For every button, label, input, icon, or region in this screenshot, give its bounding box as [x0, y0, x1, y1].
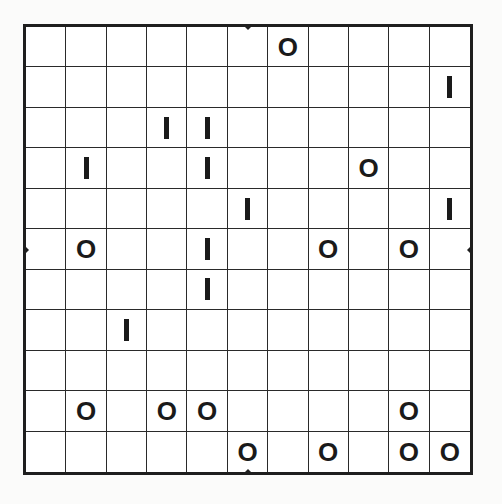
grid-cell-r9-c11[interactable]	[430, 351, 470, 391]
grid-cell-r5-c11[interactable]: I	[430, 189, 470, 229]
grid-cell-r4-c7[interactable]	[268, 148, 308, 188]
grid-cell-r2-c5[interactable]	[187, 67, 227, 107]
grid-cell-r8-c1[interactable]	[26, 310, 66, 350]
grid-cell-r11-c11[interactable]: O	[430, 432, 470, 472]
grid-cell-r9-c4[interactable]	[147, 351, 187, 391]
grid-cell-r8-c11[interactable]	[430, 310, 470, 350]
grid-cell-r2-c6[interactable]	[228, 67, 268, 107]
grid-cell-r10-c11[interactable]	[430, 391, 470, 431]
grid-cell-r7-c4[interactable]	[147, 270, 187, 310]
grid-cell-r4-c10[interactable]	[389, 148, 429, 188]
grid-cell-r3-c5[interactable]: I	[187, 108, 227, 148]
grid-cell-r3-c11[interactable]	[430, 108, 470, 148]
grid-cell-r5-c1[interactable]	[26, 189, 66, 229]
grid-cell-r7-c7[interactable]	[268, 270, 308, 310]
grid-cell-r3-c9[interactable]	[349, 108, 389, 148]
grid-cell-r9-c3[interactable]	[107, 351, 147, 391]
grid-cell-r9-c1[interactable]	[26, 351, 66, 391]
grid-cell-r10-c2[interactable]: O	[66, 391, 106, 431]
grid-cell-r6-c3[interactable]	[107, 229, 147, 269]
grid-cell-r11-c4[interactable]	[147, 432, 187, 472]
grid-cell-r7-c1[interactable]	[26, 270, 66, 310]
grid-cell-r4-c2[interactable]: I	[66, 148, 106, 188]
grid-cell-r9-c5[interactable]	[187, 351, 227, 391]
grid-cell-r6-c4[interactable]	[147, 229, 187, 269]
grid-cell-r10-c10[interactable]: O	[389, 391, 429, 431]
grid-cell-r7-c2[interactable]	[66, 270, 106, 310]
grid-cell-r7-c11[interactable]	[430, 270, 470, 310]
grid-cell-r1-c5[interactable]	[187, 27, 227, 67]
grid-cell-r11-c6[interactable]: O	[228, 432, 268, 472]
grid-cell-r7-c9[interactable]	[349, 270, 389, 310]
grid-cell-r2-c8[interactable]	[309, 67, 349, 107]
grid-cell-r4-c3[interactable]	[107, 148, 147, 188]
grid-cell-r4-c8[interactable]	[309, 148, 349, 188]
grid-cell-r8-c2[interactable]	[66, 310, 106, 350]
grid-cell-r2-c2[interactable]	[66, 67, 106, 107]
grid-cell-r11-c5[interactable]	[187, 432, 227, 472]
grid-cell-r7-c8[interactable]	[309, 270, 349, 310]
grid-cell-r4-c4[interactable]	[147, 148, 187, 188]
grid-cell-r8-c10[interactable]	[389, 310, 429, 350]
grid-cell-r4-c5[interactable]: I	[187, 148, 227, 188]
grid-cell-r2-c1[interactable]	[26, 67, 66, 107]
grid-cell-r9-c10[interactable]	[389, 351, 429, 391]
grid-cell-r6-c11[interactable]	[430, 229, 470, 269]
grid-cell-r9-c9[interactable]	[349, 351, 389, 391]
grid-cell-r11-c7[interactable]	[268, 432, 308, 472]
grid-cell-r9-c6[interactable]	[228, 351, 268, 391]
grid-cell-r6-c2[interactable]: O	[66, 229, 106, 269]
grid-cell-r10-c3[interactable]	[107, 391, 147, 431]
grid-cell-r8-c3[interactable]: I	[107, 310, 147, 350]
grid-cell-r10-c5[interactable]: O	[187, 391, 227, 431]
grid-cell-r8-c8[interactable]	[309, 310, 349, 350]
grid-cell-r6-c10[interactable]: O	[389, 229, 429, 269]
grid-cell-r2-c3[interactable]	[107, 67, 147, 107]
grid-cell-r3-c8[interactable]	[309, 108, 349, 148]
grid-cell-r11-c3[interactable]	[107, 432, 147, 472]
grid-cell-r7-c3[interactable]	[107, 270, 147, 310]
grid-cell-r10-c9[interactable]	[349, 391, 389, 431]
grid-cell-r8-c4[interactable]	[147, 310, 187, 350]
grid-cell-r11-c9[interactable]	[349, 432, 389, 472]
grid-cell-r8-c7[interactable]	[268, 310, 308, 350]
grid-cell-r1-c2[interactable]	[66, 27, 106, 67]
grid-cell-r5-c2[interactable]	[66, 189, 106, 229]
grid-cell-r5-c7[interactable]	[268, 189, 308, 229]
grid-cell-r1-c4[interactable]	[147, 27, 187, 67]
grid-cell-r1-c1[interactable]	[26, 27, 66, 67]
grid-cell-r8-c5[interactable]	[187, 310, 227, 350]
grid-cell-r4-c11[interactable]	[430, 148, 470, 188]
grid-cell-r6-c5[interactable]: I	[187, 229, 227, 269]
grid-cell-r4-c1[interactable]	[26, 148, 66, 188]
grid-cell-r2-c9[interactable]	[349, 67, 389, 107]
grid-cell-r5-c3[interactable]	[107, 189, 147, 229]
grid-cell-r5-c10[interactable]	[389, 189, 429, 229]
grid-cell-r11-c8[interactable]: O	[309, 432, 349, 472]
grid-cell-r3-c7[interactable]	[268, 108, 308, 148]
grid-cell-r3-c3[interactable]	[107, 108, 147, 148]
grid-cell-r8-c6[interactable]	[228, 310, 268, 350]
grid-cell-r5-c8[interactable]	[309, 189, 349, 229]
grid-cell-r7-c6[interactable]	[228, 270, 268, 310]
grid-cell-r5-c5[interactable]	[187, 189, 227, 229]
grid-cell-r3-c10[interactable]	[389, 108, 429, 148]
grid-cell-r4-c9[interactable]: O	[349, 148, 389, 188]
grid-cell-r2-c7[interactable]	[268, 67, 308, 107]
grid-cell-r7-c5[interactable]: I	[187, 270, 227, 310]
grid-cell-r3-c6[interactable]	[228, 108, 268, 148]
grid-cell-r9-c8[interactable]	[309, 351, 349, 391]
grid-cell-r2-c11[interactable]: I	[430, 67, 470, 107]
grid-cell-r1-c6[interactable]	[228, 27, 268, 67]
grid-cell-r11-c10[interactable]: O	[389, 432, 429, 472]
grid-cell-r1-c3[interactable]	[107, 27, 147, 67]
grid-cell-r2-c10[interactable]	[389, 67, 429, 107]
grid-cell-r11-c1[interactable]	[26, 432, 66, 472]
grid-cell-r1-c9[interactable]	[349, 27, 389, 67]
grid-cell-r9-c2[interactable]	[66, 351, 106, 391]
grid-cell-r6-c6[interactable]	[228, 229, 268, 269]
grid-cell-r4-c6[interactable]	[228, 148, 268, 188]
grid-cell-r1-c11[interactable]	[430, 27, 470, 67]
grid-cell-r2-c4[interactable]	[147, 67, 187, 107]
grid-cell-r11-c2[interactable]	[66, 432, 106, 472]
